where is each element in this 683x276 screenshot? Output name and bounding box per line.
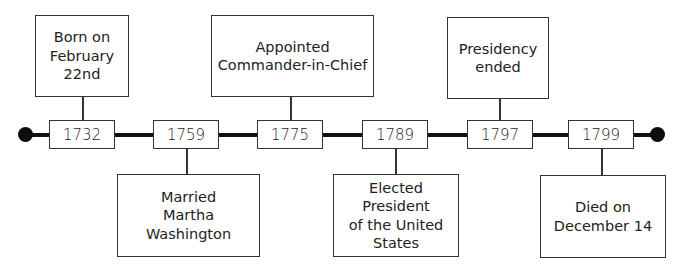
connector-1732: [82, 96, 84, 120]
timeline-axis-line: [26, 133, 657, 137]
year-box-1797: 1797: [467, 120, 533, 149]
event-box-married: Married Martha Washington: [117, 174, 260, 257]
connector-1799: [601, 149, 603, 175]
connector-1775: [290, 96, 292, 120]
event-box-presidency-ended: Presidency ended: [447, 17, 549, 99]
connector-1759: [186, 149, 188, 174]
year-box-1789: 1789: [362, 120, 428, 149]
event-box-commander-in-chief: Appointed Commander-in-Chief: [211, 15, 374, 97]
connector-1789: [395, 149, 397, 174]
event-box-elected-president: Elected President of the United States: [333, 174, 459, 257]
event-box-born: Born on February 22nd: [35, 15, 129, 97]
timeline-end-dot: [650, 127, 665, 142]
year-box-1775: 1775: [257, 120, 323, 149]
connector-1797: [499, 98, 501, 120]
event-box-died: Died on December 14: [540, 175, 666, 258]
timeline-start-dot: [18, 127, 33, 142]
year-box-1799: 1799: [568, 120, 634, 149]
year-box-1759: 1759: [153, 120, 219, 149]
year-box-1732: 1732: [49, 120, 115, 149]
